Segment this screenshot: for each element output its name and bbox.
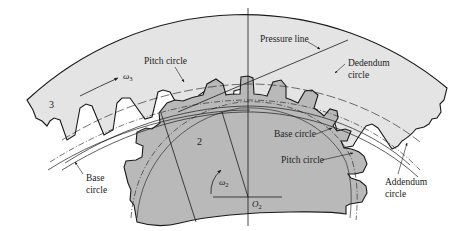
pinion-gear-number: 2 <box>197 136 202 147</box>
label-base-circle-ring-2: circle <box>86 185 107 195</box>
label-base-circle-ring-1: Base <box>86 173 104 183</box>
label-pitch-circle-ring: Pitch circle <box>144 56 187 66</box>
label-pitch-circle-pinion: Pitch circle <box>281 155 324 165</box>
label-base-circle-pinion: Base circle <box>274 129 316 139</box>
label-pressure-line: Pressure line <box>260 34 309 44</box>
leader-base-circle-ring <box>75 162 83 174</box>
label-dedendum-circle-2: circle <box>348 70 369 80</box>
label-addendum-circle-1: Addendum <box>385 177 428 187</box>
leader-addendum-circle <box>398 143 407 174</box>
gear-mesh-diagram: 3 2 ω3 ω2 O2 Pitch circle Pressure line … <box>0 0 470 231</box>
label-addendum-circle-2: circle <box>385 189 406 199</box>
ring-gear-number: 3 <box>49 99 54 110</box>
label-dedendum-circle-1: Dedendum <box>348 58 390 68</box>
